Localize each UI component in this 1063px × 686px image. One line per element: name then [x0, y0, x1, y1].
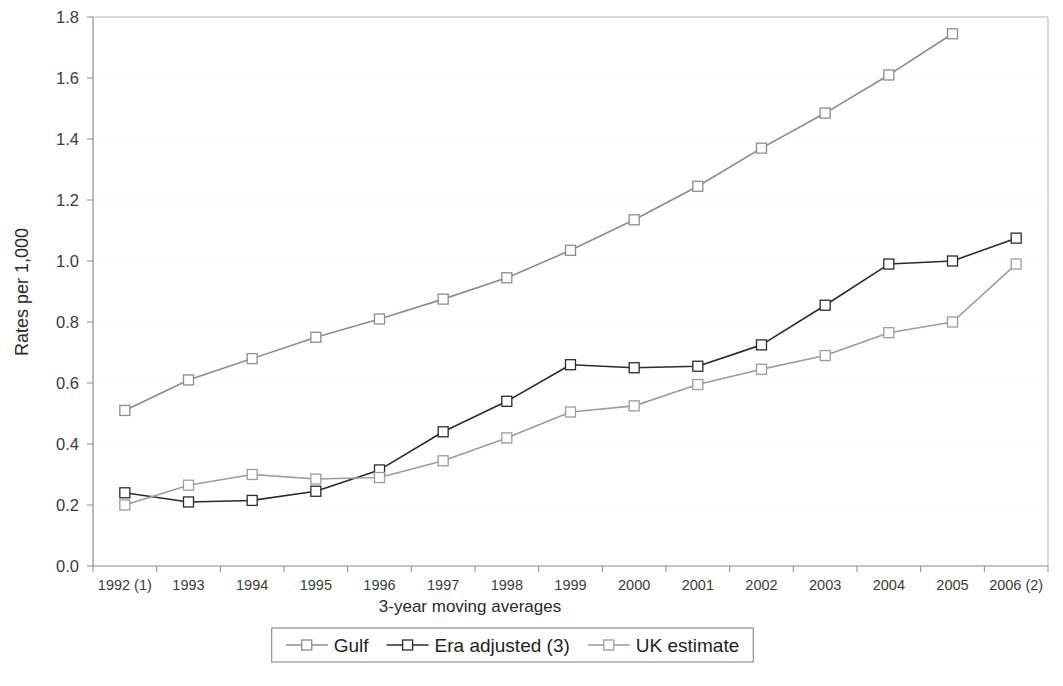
x-tick-label: 1992 (1) [98, 577, 152, 593]
y-tick-label: 0.6 [56, 374, 79, 392]
data-point-marker [120, 405, 130, 415]
data-point-marker [502, 273, 512, 283]
y-tick-label: 1.0 [56, 252, 79, 270]
data-point-marker [311, 332, 321, 342]
data-point-marker [247, 354, 257, 364]
y-tick-label: 0.0 [56, 557, 79, 575]
x-tick-label: 2004 [873, 577, 905, 593]
data-point-marker [629, 363, 639, 373]
line-chart: 0.00.20.40.60.81.01.21.41.61.8 1992 (1)1… [0, 0, 1063, 686]
data-point-marker [1011, 259, 1021, 269]
legend-marker-swatch [604, 640, 614, 650]
data-point-marker [375, 314, 385, 324]
data-point-marker [884, 70, 894, 80]
y-tick-label: 1.6 [56, 69, 79, 87]
data-point-marker [311, 486, 321, 496]
y-tick-label: 0.2 [56, 496, 79, 514]
y-tick-label: 1.2 [56, 191, 79, 209]
data-point-marker [820, 300, 830, 310]
x-tick-label: 2003 [809, 577, 841, 593]
chart-legend: GulfEra adjusted (3)UK estimate [272, 628, 754, 662]
data-point-marker [566, 360, 576, 370]
y-tick-label: 1.8 [56, 8, 79, 26]
data-point-marker [757, 364, 767, 374]
legend-label: Era adjusted (3) [435, 635, 570, 656]
data-point-marker [693, 380, 703, 390]
y-tick-label: 1.4 [56, 130, 79, 148]
legend-marker-swatch [403, 640, 413, 650]
data-point-marker [693, 181, 703, 191]
data-point-marker [566, 407, 576, 417]
x-tick-label: 2006 (2) [989, 577, 1043, 593]
y-axis-title: Rates per 1,000 [12, 228, 32, 356]
data-point-marker [247, 470, 257, 480]
x-tick-label: 2000 [618, 577, 650, 593]
data-point-marker [438, 294, 448, 304]
x-tick-label: 1998 [491, 577, 523, 593]
x-tick-label: 1999 [554, 577, 586, 593]
data-point-marker [948, 317, 958, 327]
data-point-marker [566, 245, 576, 255]
data-point-marker [820, 351, 830, 361]
data-point-marker [948, 29, 958, 39]
data-point-marker [375, 473, 385, 483]
data-point-marker [502, 433, 512, 443]
data-point-marker [120, 500, 130, 510]
data-point-marker [757, 143, 767, 153]
data-point-marker [311, 474, 321, 484]
data-point-marker [184, 375, 194, 385]
x-tick-label: 2005 [936, 577, 968, 593]
legend-label: Gulf [334, 635, 370, 656]
x-tick-label: 2001 [682, 577, 714, 593]
data-point-marker [629, 215, 639, 225]
x-tick-label: 1995 [300, 577, 332, 593]
x-tick-label: 1993 [172, 577, 204, 593]
data-point-marker [247, 495, 257, 505]
x-tick-label: 1996 [363, 577, 395, 593]
data-point-marker [757, 340, 767, 350]
data-point-marker [629, 401, 639, 411]
data-point-marker [502, 396, 512, 406]
x-tick-label: 1994 [236, 577, 268, 593]
x-tick-label: 1997 [427, 577, 459, 593]
chart-container: 0.00.20.40.60.81.01.21.41.61.8 1992 (1)1… [0, 0, 1063, 686]
data-point-marker [884, 328, 894, 338]
data-point-marker [693, 361, 703, 371]
x-tick-label: 2002 [745, 577, 777, 593]
legend-marker-swatch [302, 640, 312, 650]
legend-label: UK estimate [636, 635, 739, 656]
y-tick-label: 0.8 [56, 313, 79, 331]
data-point-marker [948, 256, 958, 266]
data-point-marker [884, 259, 894, 269]
data-point-marker [184, 480, 194, 490]
data-point-marker [438, 456, 448, 466]
data-point-marker [438, 427, 448, 437]
data-point-marker [120, 488, 130, 498]
data-point-marker [1011, 233, 1021, 243]
data-point-marker [820, 108, 830, 118]
x-axis-title: 3-year moving averages [379, 597, 561, 616]
data-point-marker [184, 497, 194, 507]
y-tick-label: 0.4 [56, 435, 79, 453]
